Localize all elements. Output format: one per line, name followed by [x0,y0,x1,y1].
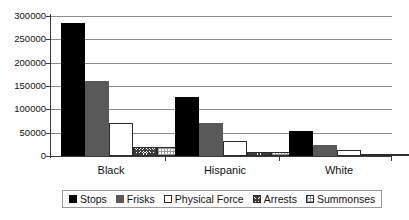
bar-white-frisks [313,145,337,156]
legend-label-physical-force: Physical Force [175,194,244,205]
y-tick-label-100000: 100000 [14,104,46,114]
y-tick-label-300000: 300000 [14,11,46,21]
y-tick-label-0: 0 [41,151,46,161]
x-axis-line [50,156,392,157]
y-tick-mark-150000 [46,86,51,87]
bar-hispanic-frisks [199,123,223,156]
y-tick-label-250000: 250000 [14,34,46,44]
legend-label-frisks: Frisks [127,194,155,205]
y-tick-mark-200000 [46,63,51,64]
bar-hispanic-physical-force [223,141,247,156]
bar-group-black [61,16,161,156]
swatch-stops-icon [69,195,77,203]
y-tick-label-200000: 200000 [14,58,46,68]
swatch-frisks-icon [116,195,124,203]
y-tick-mark-100000 [46,109,51,110]
bar-group-white [289,16,389,156]
legend-label-arrests: Arrests [264,194,297,205]
swatch-summonses-icon [306,195,314,203]
bar-hispanic-stops [175,97,199,157]
swatch-arrests-icon [253,195,261,203]
chart-legend: Stops Frisks Physical Force Arrests Summ… [62,190,382,208]
y-tick-mark-300000 [46,16,51,17]
legend-item-summonses: Summonses [306,194,375,205]
x-tick-mark-3 [391,156,392,161]
plot-area [51,16,392,156]
x-axis-label-black: Black [61,164,161,176]
bar-black-frisks [85,81,109,156]
y-tick-mark-50000 [46,133,51,134]
x-axis-label-white: White [289,164,389,176]
bar-white-stops [289,131,313,156]
bar-black-physical-force [109,123,133,156]
x-tick-mark-1 [165,156,166,161]
swatch-physical-force-icon [164,195,172,203]
y-tick-mark-0 [46,156,51,157]
x-tick-mark-2 [279,156,280,161]
legend-item-arrests: Arrests [253,194,297,205]
y-tick-mark-250000 [46,39,51,40]
bar-group-hispanic [175,16,275,156]
bar-black-stops [61,23,85,156]
legend-item-frisks: Frisks [116,194,155,205]
y-tick-label-150000: 150000 [14,81,46,91]
legend-item-physical-force: Physical Force [164,194,244,205]
x-axis-label-hispanic: Hispanic [175,164,275,176]
legend-label-summonses: Summonses [317,194,375,205]
bar-black-arrests [133,147,157,156]
y-tick-label-50000: 50000 [20,128,46,138]
legend-label-stops: Stops [80,194,107,205]
legend-item-stops: Stops [69,194,107,205]
